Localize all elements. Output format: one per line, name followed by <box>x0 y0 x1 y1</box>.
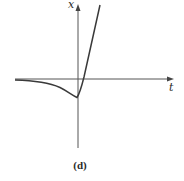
x-axis-arrow-icon <box>76 4 81 11</box>
x-axis-label: t <box>169 81 173 94</box>
figure-caption: (d) <box>0 159 160 171</box>
y-axis-label: x <box>68 0 74 11</box>
figure: x t (d) <box>0 0 184 181</box>
plot-area <box>0 0 184 181</box>
curve <box>15 5 100 98</box>
